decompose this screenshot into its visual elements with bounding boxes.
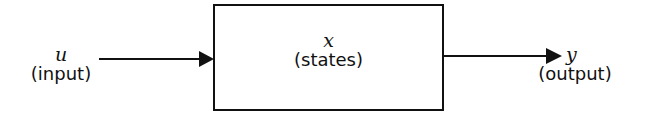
input-label: u (input) <box>18 44 104 84</box>
output-symbol: y <box>530 44 620 64</box>
input-arrowhead-icon <box>199 51 214 67</box>
state-symbol: x <box>214 30 443 50</box>
output-description: (output) <box>530 64 620 84</box>
input-symbol: u <box>18 44 104 64</box>
input-description: (input) <box>18 64 104 84</box>
output-label: y (output) <box>530 44 620 84</box>
state-description: (states) <box>214 50 443 70</box>
block-label: x (states) <box>214 30 443 70</box>
